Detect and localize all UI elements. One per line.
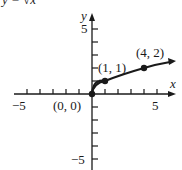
y-tick-label-5: 5: [81, 21, 88, 36]
y-axis-arrow-icon: [89, 13, 95, 21]
x-tick-label-neg5: −5: [12, 98, 26, 113]
point-label-1-1: (1, 1): [98, 60, 126, 75]
chart-svg: y 5 −5 x −5 5 (0, 0) (1, 1) (4, 2): [0, 0, 182, 170]
point-1-1: [102, 78, 108, 84]
point-label-origin: (0, 0): [53, 98, 81, 113]
point-origin: [89, 91, 95, 97]
x-axis-label: x: [169, 76, 176, 91]
x-axis-arrow-icon: [168, 91, 176, 97]
point-label-4-2: (4, 2): [136, 45, 164, 60]
curve-arrow-icon: [168, 58, 176, 65]
point-4-2: [141, 65, 147, 71]
y-tick-label-neg5: −5: [71, 152, 85, 167]
x-tick-label-5: 5: [152, 98, 159, 113]
